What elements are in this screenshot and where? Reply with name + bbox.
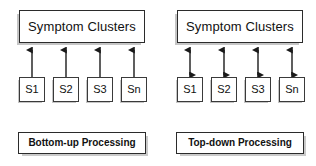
symptom-clusters-label: Symptom Clusters: [186, 20, 294, 33]
symptom-node-s1[interactable]: S1: [19, 77, 45, 102]
symptom-clusters-box[interactable]: Symptom Clusters: [177, 10, 303, 43]
symptom-node-label: S1: [183, 84, 196, 95]
caption-label: Bottom-up Processing: [28, 138, 135, 148]
symptom-node-label: S1: [25, 84, 38, 95]
symptom-node-s3[interactable]: S3: [87, 77, 113, 102]
symptom-node-s2[interactable]: S2: [211, 77, 237, 102]
diagram-canvas: Symptom Clusters S1 S2 S3 Sn: [0, 0, 316, 166]
caption-box-bottom-up[interactable]: Bottom-up Processing: [18, 132, 146, 154]
symptom-node-label: S2: [59, 84, 72, 95]
symptom-node-label: S2: [217, 84, 230, 95]
symptom-node-sn[interactable]: Sn: [121, 77, 147, 102]
symptom-node-s2[interactable]: S2: [53, 77, 79, 102]
symptom-clusters-label: Symptom Clusters: [28, 20, 136, 33]
caption-label: Top-down Processing: [188, 138, 292, 148]
symptom-node-s3[interactable]: S3: [245, 77, 271, 102]
symptom-node-sn[interactable]: Sn: [279, 77, 305, 102]
symptom-node-label: S3: [251, 84, 264, 95]
panel-bottom-up: Symptom Clusters S1 S2 S3 Sn: [0, 0, 158, 166]
symptom-node-s1[interactable]: S1: [177, 77, 203, 102]
panel-top-down: Symptom Clusters S1 S2: [158, 0, 316, 166]
symptom-node-label: Sn: [127, 84, 140, 95]
symptom-node-label: Sn: [285, 84, 298, 95]
caption-box-top-down[interactable]: Top-down Processing: [176, 132, 304, 154]
symptom-node-label: S3: [93, 84, 106, 95]
symptom-clusters-box[interactable]: Symptom Clusters: [19, 10, 145, 43]
